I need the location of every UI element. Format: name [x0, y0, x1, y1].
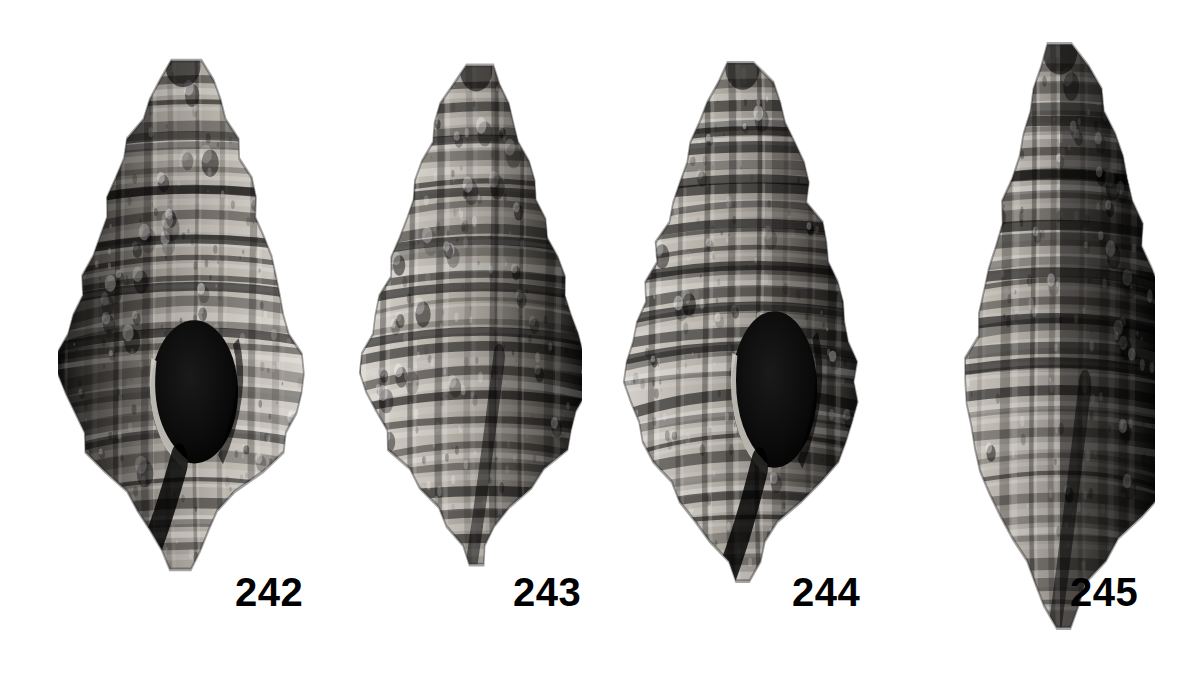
figure-number-243: 243	[513, 572, 581, 612]
specimen-plate: 242243244245	[0, 0, 1203, 686]
figure-number-242: 242	[235, 572, 303, 612]
specimen-photo-243	[352, 55, 582, 575]
specimen-photo-242	[58, 50, 308, 580]
figure-number-244: 244	[792, 572, 860, 612]
specimen-photo-244	[620, 52, 865, 592]
specimen-photo-245	[905, 32, 1155, 640]
figure-number-245: 245	[1070, 572, 1138, 612]
